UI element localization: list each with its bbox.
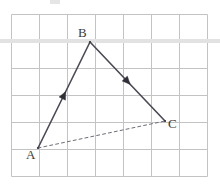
- vertex-dot-b: [89, 41, 91, 43]
- vertex-label-c: C: [168, 117, 177, 130]
- vertex-label-a: A: [26, 148, 35, 161]
- grid-layer: [12, 15, 208, 177]
- highlight-band: [0, 39, 220, 43]
- vertex-dot-c: [164, 120, 166, 122]
- arrow-heads-layer: [59, 76, 130, 100]
- vertex-label-b: B: [78, 26, 87, 39]
- vector-diagram-figure: A B C: [0, 0, 220, 184]
- vertex-dot-a: [37, 147, 39, 149]
- segment-AC: [38, 121, 165, 148]
